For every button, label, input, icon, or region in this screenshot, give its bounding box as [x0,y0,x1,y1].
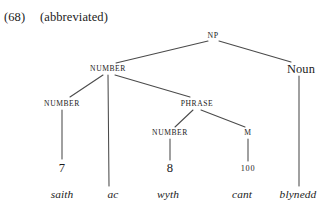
tree-numeral-hundred: 100 [241,165,255,173]
tree-node-number2: NUMBER [44,100,80,108]
tree-edge-number1-number2 [70,75,103,97]
tree-node-number1: NUMBER [90,65,126,73]
tree-edge-phrase-number3 [175,110,193,127]
tree-node-noun: Noun [287,63,315,75]
tree-node-np: NP [208,32,219,40]
tree-word-blynedd: blynedd [280,189,317,200]
tree-node-m: M [244,129,251,137]
tree-edge-np-number1 [116,41,208,63]
tree-edge-np-noun [219,41,291,62]
tree-edge-number1-phrase [115,75,190,97]
tree-numeral-seven: 7 [59,162,65,175]
tree-edge-number1-ac [108,75,109,186]
tree-numeral-eight: 8 [167,162,173,175]
tree-node-number3: NUMBER [152,129,188,137]
tree-edge-phrase-m [201,110,245,127]
tree-word-saith: saith [51,189,74,200]
tree-node-phrase: PHRASE [181,100,213,108]
tree-word-wyth: wyth [157,189,179,200]
tree-word-ac: ac [108,189,119,200]
tree-word-cant: cant [232,189,252,200]
figure-canvas: (68) (abbreviated) NPNUMBERNounNUMBERPHR… [0,0,331,209]
